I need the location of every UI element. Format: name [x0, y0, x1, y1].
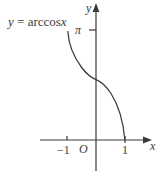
- equation-argument: x: [61, 14, 67, 29]
- tick-label-one: 1: [122, 144, 128, 156]
- origin-label: O: [79, 143, 88, 155]
- tick-label-pi: π: [75, 24, 81, 36]
- y-axis-arrowhead: [93, 3, 100, 12]
- arccos-graph-figure: y = arccosx y x π O −1 1: [0, 0, 165, 180]
- x-axis-label: x: [150, 140, 155, 152]
- tick-label-negative-one: −1: [57, 144, 70, 156]
- curve-equation-label: y = arccosx: [8, 15, 67, 28]
- y-axis-label: y: [86, 2, 91, 14]
- equation-equals: =: [14, 14, 28, 29]
- equation-function-name: arccos: [28, 14, 61, 29]
